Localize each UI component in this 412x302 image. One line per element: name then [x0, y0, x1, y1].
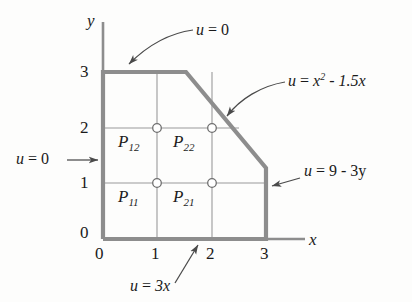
- bc-label-left: u = 0: [16, 151, 49, 167]
- node-marker-p22: [208, 124, 217, 133]
- node-marker-p21: [208, 179, 217, 188]
- y-tick-0: 0: [80, 224, 89, 241]
- bc-label-bottom: u = 3x: [130, 278, 170, 294]
- bc-left-rhs: 0: [41, 150, 49, 167]
- bc-left-eq: =: [28, 150, 37, 167]
- point-label-p12: P12: [118, 132, 139, 152]
- y-tick-2: 2: [80, 119, 89, 136]
- bc-top-rhs: 0: [221, 21, 229, 38]
- bc-top-u: u: [196, 21, 204, 38]
- arrow-right-u9m3y: [272, 178, 300, 186]
- x-tick-3: 3: [260, 245, 269, 262]
- bc-right-rhs: 9 - 3y: [329, 162, 366, 179]
- node-marker-p12: [153, 124, 162, 133]
- bc-slant-rhs-exponent: 2: [320, 71, 325, 82]
- finite-difference-grid-figure: y x 3 2 1 0 0 1 2 3 P11 P21 P12 P22 u = …: [0, 0, 412, 302]
- bc-right-u: u: [304, 162, 312, 179]
- y-tick-1: 1: [80, 174, 89, 191]
- point-label-p11: P11: [118, 187, 139, 207]
- x-tick-0: 0: [95, 245, 104, 262]
- bc-right-eq: =: [316, 162, 325, 179]
- bc-bottom-u: u: [130, 277, 138, 294]
- bc-slant-eq: =: [300, 72, 309, 89]
- arrow-top-u0: [129, 30, 193, 64]
- point-label-p22: P22: [173, 132, 194, 152]
- bc-label-right: u = 9 - 3y: [304, 163, 366, 179]
- node-marker-p11: [153, 179, 162, 188]
- bc-left-u: u: [16, 150, 24, 167]
- bc-top-eq: =: [208, 21, 217, 38]
- arrow-slant-parabola: [227, 82, 285, 116]
- bc-label-slant: u = x2 - 1.5x: [288, 73, 366, 89]
- bc-bottom-eq: =: [142, 277, 151, 294]
- point-label-p11-sub: 11: [128, 196, 138, 208]
- point-label-p12-name: P: [118, 132, 128, 151]
- point-label-p22-name: P: [173, 132, 183, 151]
- point-label-p21-name: P: [173, 187, 183, 206]
- point-label-p12-sub: 12: [128, 141, 139, 153]
- bc-bottom-rhs: 3x: [155, 277, 170, 294]
- y-axis-label: y: [87, 12, 95, 29]
- point-label-p21: P21: [173, 187, 194, 207]
- x-axis-label: x: [309, 231, 317, 248]
- bc-slant-u: u: [288, 72, 296, 89]
- interior-gridlines: [103, 72, 266, 239]
- point-label-p11-name: P: [118, 187, 128, 206]
- x-tick-1: 1: [151, 245, 160, 262]
- point-label-p21-sub: 21: [183, 196, 194, 208]
- arrow-bottom-u3x: [175, 245, 198, 283]
- point-label-p22-sub: 22: [183, 141, 194, 153]
- y-tick-3: 3: [80, 63, 89, 80]
- domain-boundary-polygon: [103, 72, 266, 239]
- bc-label-top: u = 0: [196, 22, 229, 38]
- bc-slant-rhs-tail: - 1.5x: [329, 72, 365, 89]
- x-tick-2: 2: [206, 245, 215, 262]
